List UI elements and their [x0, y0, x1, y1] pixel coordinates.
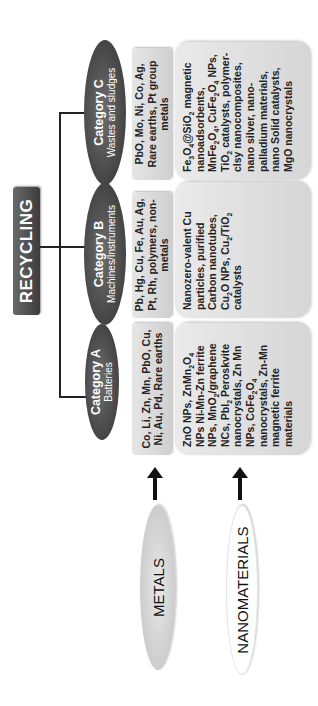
category-a-nanomaterials-box: ZnO NPs, ZnMn2O4 NPs Ni-Mn-Zn ferrite NP…: [175, 323, 310, 455]
nanomaterials-label: NANOMATERIALS: [234, 526, 251, 653]
category-c-subtitle: Wastes and sludges: [106, 68, 118, 158]
recycling-root-node: RECYCLING: [13, 187, 40, 315]
category-c-nanomaterials-box: Fe3O4@SiO2 magnetic nanoadsorbents, MnFe…: [175, 42, 310, 180]
category-a-metals-text: Co, Li, Zn, Mn, PbO, Cu, Ni, Au, Pd, Rar…: [140, 327, 165, 451]
category-a-title: Category A: [89, 349, 103, 415]
category-b-subtitle: Machines/Instruments: [106, 205, 118, 303]
recycling-label: RECYCLING: [17, 199, 37, 304]
nanomaterials-source-node: NANOMATERIALS: [226, 505, 258, 675]
recycling-diagram: RECYCLING Category A Batteries Category …: [0, 0, 318, 706]
nanomaterials-arrow-icon: [232, 466, 248, 500]
connector-trunk: [59, 112, 61, 398]
category-b-nanomaterials-box: Nanozero-valent Cu particles, purified C…: [175, 182, 310, 318]
category-b-title: Category B: [92, 221, 106, 288]
connector-to-category-b: [59, 246, 87, 248]
connector-root-stub: [40, 246, 60, 248]
category-c-title: Category C: [92, 79, 106, 146]
metals-arrow-icon: [147, 466, 163, 500]
connector-to-category-a: [59, 396, 87, 398]
category-a-nanomaterials-text: ZnO NPs, ZnMn2O4 NPs Ni-Mn-Zn ferrite NP…: [181, 331, 294, 447]
connector-to-category-c: [59, 112, 87, 114]
category-b-node: Category B Machines/Instruments: [84, 183, 126, 325]
category-c-metals-box: PbO, Mo, Ni, Co, Ag, Rare earths, Pt gro…: [132, 48, 172, 180]
category-c-metals-text: PbO, Mo, Ni, Co, Ag, Rare earths, Pt gro…: [133, 52, 171, 176]
category-b-metals-text: Pb, Hg, Cu, Fe, Au, Ag, Pt, Rh, polymers…: [133, 196, 171, 314]
category-c-nanomaterials-text: Fe3O4@SiO2 magnetic nanoadsorbents, MnFe…: [181, 50, 294, 172]
category-a-node: Category A Batteries: [85, 324, 119, 440]
category-b-metals-box: Pb, Hg, Cu, Fe, Au, Ag, Pt, Rh, polymers…: [132, 192, 172, 318]
category-a-subtitle: Batteries: [103, 362, 115, 401]
category-c-node: Category C Wastes and sludges: [84, 40, 126, 185]
category-b-nanomaterials-text: Nanozero-valent Cu particles, purified C…: [181, 190, 244, 310]
metals-source-node: METALS: [140, 505, 176, 670]
metals-label: METALS: [150, 558, 167, 617]
category-a-metals-box: Co, Li, Zn, Mn, PbO, Cu, Ni, Au, Pd, Rar…: [132, 323, 172, 455]
